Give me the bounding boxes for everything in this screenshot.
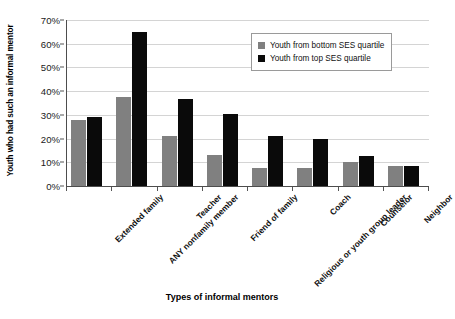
- x-axis-category-label: Extended family: [113, 192, 165, 244]
- y-axis-tick-label: 40%: [41, 86, 60, 97]
- x-axis-category-label: Friend of family: [248, 192, 299, 243]
- legend-label: Youth from bottom SES quartile: [270, 41, 384, 50]
- x-axis-tick-mark: [247, 187, 248, 191]
- bar: [343, 162, 358, 186]
- bar: [268, 136, 283, 186]
- bar: [87, 117, 102, 186]
- y-axis-tick-label: 10%: [41, 157, 60, 168]
- bar: [162, 136, 177, 186]
- x-axis-tick-mark: [66, 187, 67, 191]
- y-axis-tick-mark: [60, 91, 64, 92]
- y-axis-tick-mark: [60, 138, 64, 139]
- x-axis-tick-mark: [383, 187, 384, 191]
- y-axis-tick-label: 70%: [41, 15, 60, 26]
- legend-item: Youth from bottom SES quartile: [258, 39, 384, 52]
- y-axis-tick-label: 0%: [46, 181, 60, 192]
- x-axis-tick-mark: [428, 187, 429, 191]
- y-axis-title-text: Youth who had such an informal mentor: [6, 24, 15, 176]
- x-axis-tick-mark: [338, 187, 339, 191]
- y-axis-title: Youth who had such an informal mentor: [0, 0, 20, 200]
- x-axis-category-labels: Extended familyANY nonfamily memberTeach…: [66, 192, 428, 284]
- x-axis-tick-mark: [292, 187, 293, 191]
- x-axis-tick-mark: [202, 187, 203, 191]
- legend-swatch: [258, 55, 265, 62]
- legend-item: Youth from top SES quartile: [258, 52, 384, 65]
- x-axis-tick-mark: [157, 187, 158, 191]
- bar-group: [67, 20, 112, 186]
- chart-legend: Youth from bottom SES quartileYouth from…: [251, 33, 392, 71]
- y-axis-tick-mark: [60, 162, 64, 163]
- x-axis-category-label: Coach: [328, 192, 353, 217]
- x-axis-tick-mark: [111, 187, 112, 191]
- bar: [223, 114, 238, 186]
- bar: [359, 156, 374, 186]
- y-axis-tick-mark: [60, 67, 64, 68]
- bar: [252, 168, 267, 186]
- y-axis-tick-mark: [60, 20, 64, 21]
- bar: [404, 166, 419, 186]
- bar: [207, 155, 222, 186]
- bar: [116, 97, 131, 186]
- legend-swatch: [258, 42, 265, 49]
- y-axis-tick-labels: 0%10%20%30%40%50%60%70%: [20, 14, 64, 186]
- y-axis-tick-label: 20%: [41, 133, 60, 144]
- bar: [178, 99, 193, 186]
- x-axis-title: Types of informal mentors: [0, 292, 444, 302]
- bar-group: [112, 20, 157, 186]
- bar-group: [203, 20, 248, 186]
- y-axis-tick-label: 50%: [41, 62, 60, 73]
- y-axis-tick-mark: [60, 114, 64, 115]
- bar: [313, 139, 328, 186]
- bar: [297, 168, 312, 186]
- y-axis-tick-label: 30%: [41, 109, 60, 120]
- bar-group: [158, 20, 203, 186]
- x-axis-category-label: Neighbor: [422, 192, 455, 225]
- y-axis-tick-mark: [60, 186, 64, 187]
- y-axis-tick-mark: [60, 43, 64, 44]
- legend-label: Youth from top SES quartile: [270, 54, 371, 63]
- bar: [388, 166, 403, 186]
- bar: [71, 120, 86, 186]
- y-axis-tick-label: 60%: [41, 38, 60, 49]
- bar: [132, 32, 147, 186]
